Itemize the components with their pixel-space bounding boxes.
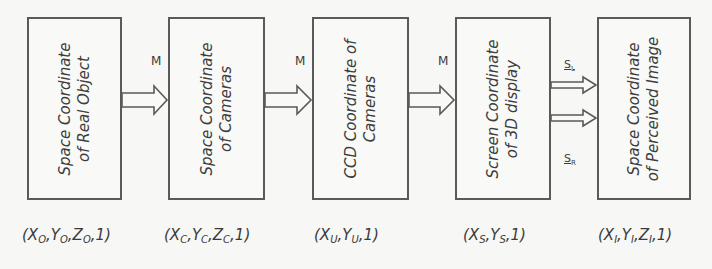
split-label-right-sub: R xyxy=(571,159,576,167)
coord-sub: O xyxy=(83,234,91,245)
coord-sub: C xyxy=(223,234,230,245)
arrow-right-icon xyxy=(551,77,596,93)
coord-sub: C xyxy=(201,234,208,245)
coord-sub: S xyxy=(499,234,505,245)
coord-sub: I xyxy=(614,234,617,245)
coord-sub: C xyxy=(180,234,187,245)
coord-perceived-image: (XI,YI,ZI,1) xyxy=(598,226,672,245)
coord-sub: U xyxy=(351,234,358,245)
coord-real-object: (XO,YO,ZO,1) xyxy=(22,226,111,245)
coord-ccd: (XU,YU,1) xyxy=(314,226,379,245)
split-label-left-sub: L xyxy=(571,65,575,73)
coord-sub: S xyxy=(479,234,485,245)
coord-cameras-space: (XC,YC,ZC,1) xyxy=(164,226,250,245)
coord-sub: I xyxy=(631,234,634,245)
split-label-left: SL xyxy=(564,58,575,73)
arrow-label-m-1: M xyxy=(151,54,161,68)
split-label-right-letter: S xyxy=(564,152,571,165)
arrow-label-m-2: M xyxy=(295,54,305,68)
coord-sub: O xyxy=(60,234,68,245)
arrow-right-icon xyxy=(122,86,167,114)
arrow-right-icon xyxy=(265,86,311,114)
coord-sub: O xyxy=(38,234,46,245)
coord-sub: U xyxy=(330,234,337,245)
split-label-right: SR xyxy=(564,152,576,167)
coord-screen: (XS,YS,1) xyxy=(463,226,526,245)
arrow-right-icon xyxy=(551,110,596,126)
arrow-label-m-3: M xyxy=(438,54,448,68)
coord-sub: I xyxy=(649,234,652,245)
arrow-right-icon xyxy=(409,86,454,114)
split-label-left-letter: S xyxy=(564,58,571,71)
